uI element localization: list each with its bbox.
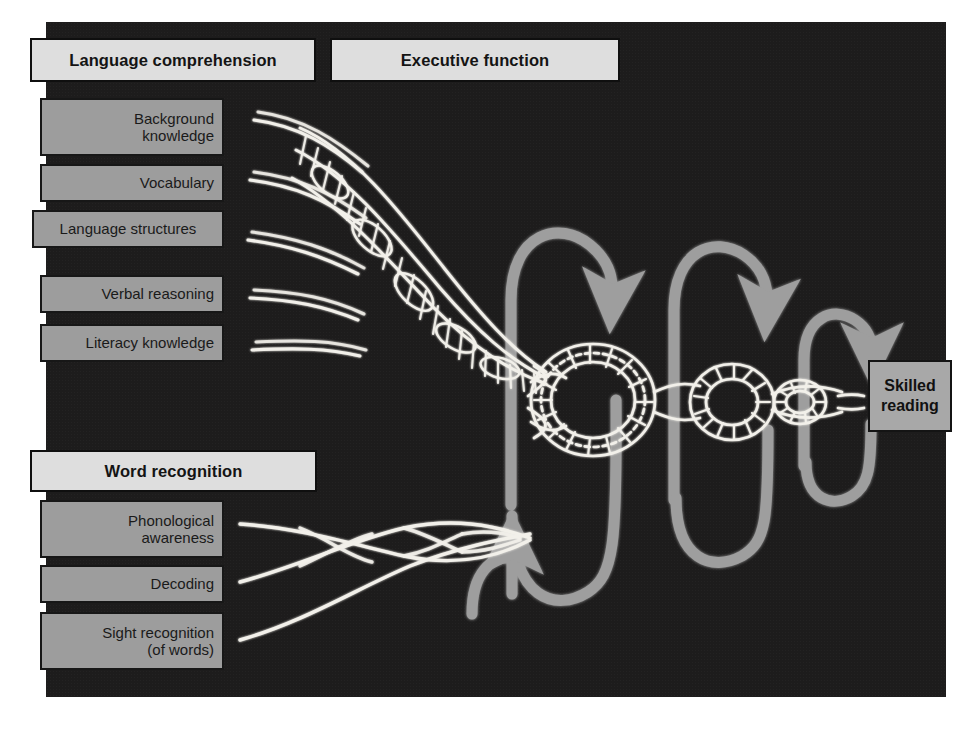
strand-decoding[interactable]: Decoding bbox=[40, 565, 224, 603]
strand-vocabulary[interactable]: Vocabulary bbox=[40, 164, 224, 202]
strand-background-knowledge[interactable]: Background knowledge bbox=[40, 98, 224, 156]
section-header-language-comprehension[interactable]: Language comprehension bbox=[30, 38, 316, 82]
strand-phonological-awareness[interactable]: Phonological awareness bbox=[40, 500, 224, 558]
section-header-language-comprehension-label: Language comprehension bbox=[69, 51, 277, 70]
strand-literacy-knowledge[interactable]: Literacy knowledge bbox=[40, 324, 224, 362]
strand-sight-recognition[interactable]: Sight recognition (of words) bbox=[40, 612, 224, 670]
strand-label-line: (of words) bbox=[147, 641, 214, 658]
outcome-skilled-reading[interactable]: Skilled reading bbox=[868, 360, 952, 432]
section-header-word-recognition-label: Word recognition bbox=[105, 462, 243, 481]
section-header-executive-function-label: Executive function bbox=[401, 51, 550, 70]
strand-language-structures[interactable]: Language structures bbox=[32, 210, 224, 248]
strand-label-line: Phonological bbox=[128, 512, 214, 529]
strand-label-line: Language structures bbox=[60, 220, 197, 237]
strand-label-line: awareness bbox=[141, 529, 214, 546]
strand-label-line: Vocabulary bbox=[140, 174, 214, 191]
strand-label-line: Literacy knowledge bbox=[86, 334, 214, 351]
strand-label-line: Background bbox=[134, 110, 214, 127]
strand-label-line: Decoding bbox=[151, 575, 214, 592]
outcome-label-line: reading bbox=[881, 396, 939, 416]
strand-verbal-reasoning[interactable]: Verbal reasoning bbox=[40, 275, 224, 313]
figure-canvas: Language comprehension Background knowle… bbox=[0, 0, 976, 729]
strand-label-line: Verbal reasoning bbox=[101, 285, 214, 302]
strand-label-line: Sight recognition bbox=[102, 624, 214, 641]
strand-label-line: knowledge bbox=[142, 127, 214, 144]
section-header-word-recognition[interactable]: Word recognition bbox=[30, 450, 317, 492]
outcome-label-line: Skilled bbox=[884, 376, 936, 396]
section-header-executive-function[interactable]: Executive function bbox=[330, 38, 620, 82]
